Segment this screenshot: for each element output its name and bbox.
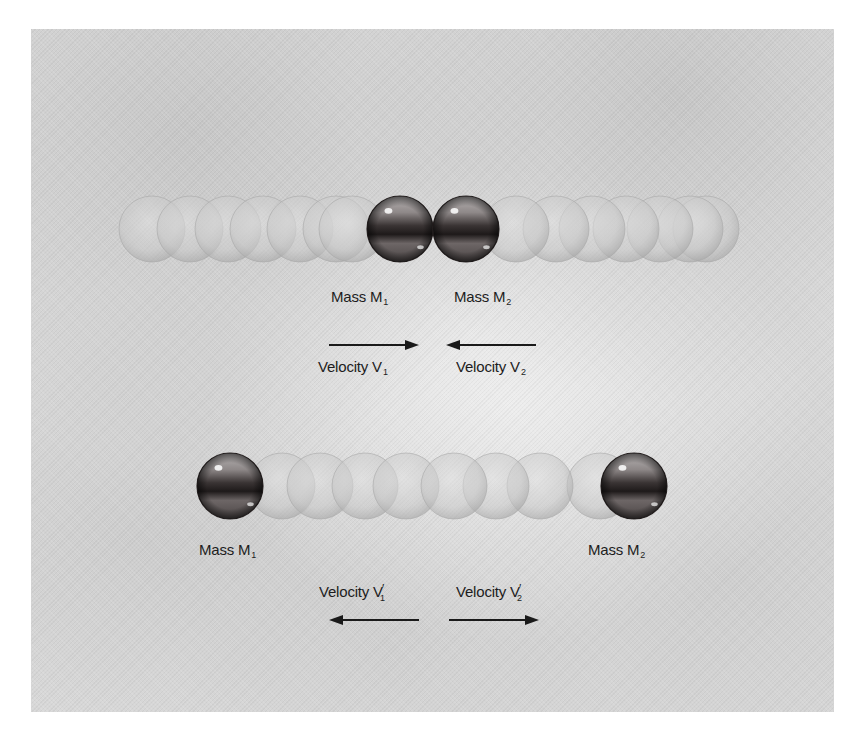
after-collision-row [197, 453, 667, 519]
after-mass2-label: Mass M2 [588, 541, 645, 564]
before-velocity2-arrow-left [446, 339, 536, 351]
collision-illustration [0, 0, 854, 729]
mass-text: Mass M [331, 288, 382, 305]
velocity-subscript: 2 [521, 367, 526, 377]
mass-subscript: 1 [251, 550, 256, 560]
solid-ball-mass2 [601, 453, 667, 519]
velocity-subscript: 1 [383, 367, 388, 377]
solid-ball-mass2 [433, 196, 499, 262]
arrowhead-right-icon [525, 615, 539, 625]
before-mass2-label: Mass M2 [454, 288, 511, 311]
after-velocity1-arrow-left [329, 614, 419, 626]
before-velocity1-arrow-right [329, 339, 419, 351]
after-velocity2-arrow-right [449, 614, 539, 626]
before-velocity1-label: Velocity V1 [318, 358, 388, 381]
before-collision-row [119, 196, 739, 262]
mass-subscript: 2 [640, 550, 645, 560]
mass-subscript: 1 [383, 297, 388, 307]
velocity-text: Velocity V [319, 583, 383, 600]
after-velocity1-label: Velocity V′1 [319, 583, 385, 603]
solid-ball-mass1 [367, 196, 433, 262]
before-mass1-label: Mass M1 [331, 288, 388, 311]
velocity-text: Velocity V [318, 358, 382, 375]
after-velocity2-label: Velocity V′2 [456, 583, 522, 603]
solid-ball-mass1 [197, 453, 263, 519]
velocity-text: Velocity V [456, 583, 520, 600]
before-velocity2-label: Velocity V2 [456, 358, 526, 381]
ghost-ball-trail [421, 453, 487, 519]
velocity-text: Velocity V [456, 358, 520, 375]
after-mass1-label: Mass M1 [199, 541, 256, 564]
mass-text: Mass M [454, 288, 505, 305]
velocity-subscript: 2 [517, 593, 522, 603]
arrowhead-right-icon [405, 340, 419, 350]
velocity-subscript: 1 [380, 593, 385, 603]
mass-subscript: 2 [506, 297, 511, 307]
mass-text: Mass M [588, 541, 639, 558]
mass-text: Mass M [199, 541, 250, 558]
